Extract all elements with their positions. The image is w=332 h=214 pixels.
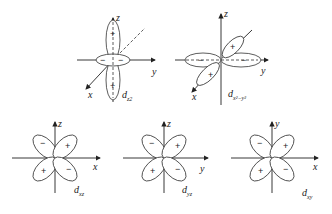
axis-label-z: z [57, 118, 62, 129]
sign-ur: + [175, 141, 180, 151]
axis-label-y: y [151, 66, 157, 77]
axis-label-x: x [191, 91, 197, 102]
sign-bottom: + [110, 81, 115, 91]
sign-ll: + [41, 166, 46, 176]
sign-back: + [230, 42, 235, 52]
axis-label-y: y [199, 163, 205, 174]
sign-lr: − [283, 164, 288, 174]
orbital-dxz: − + + − z x dxz [12, 118, 100, 197]
orbital-dyz: − + + − z y dyz [123, 118, 208, 197]
d-orbitals-diagram: + + − − z y x dz2 + + − − z y x dx²−y² − [0, 0, 332, 214]
sign-ul: − [40, 138, 45, 148]
orbital-dz2: + + − − z y x dz2 [77, 12, 157, 102]
sign-right: − [241, 55, 246, 65]
orbital-dx2-y2: + + − − z y x dx²−y² [175, 8, 268, 105]
sign-ul: − [149, 138, 154, 148]
orbital-label: dyz [182, 184, 193, 197]
sign-top: + [110, 29, 115, 39]
axis-label-z: z [166, 118, 171, 129]
axis-label-z: z [115, 12, 120, 23]
sign-ll: + [258, 166, 263, 176]
orbital-label: dz2 [122, 89, 132, 102]
orbital-label: dxz [74, 184, 85, 197]
axis-label-z: z [223, 8, 228, 19]
axis-label-y: y [260, 65, 266, 76]
sign-lr: − [175, 164, 180, 174]
sign-left: − [198, 55, 203, 65]
sign-ur: + [283, 141, 288, 151]
orbital-label: dxy [302, 187, 313, 200]
sign-lr: − [66, 164, 71, 174]
orbital-dxy: − + + − y x dxy [231, 118, 318, 200]
axis-label-x: x [92, 161, 98, 172]
sign-right: − [118, 55, 123, 65]
sign-ur: + [65, 141, 70, 151]
sign-left: − [100, 55, 105, 65]
sign-front: + [208, 70, 213, 80]
axis-label-y: y [274, 118, 280, 129]
axis-label-x: x [312, 161, 318, 172]
sign-ul: − [257, 138, 262, 148]
orbital-label: dx²−y² [228, 88, 246, 101]
axis-label-x: x [87, 89, 93, 100]
sign-ll: + [150, 166, 155, 176]
